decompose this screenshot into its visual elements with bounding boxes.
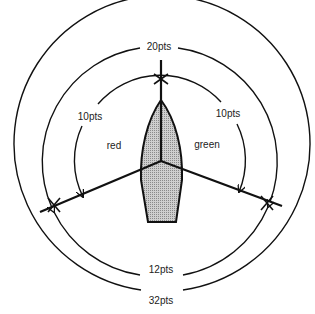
label-20pts: 20pts [147, 42, 171, 52]
sailing-points-diagram: 20pts 10pts 10pts red green 12pts 32pts [0, 0, 315, 314]
label-32pts: 32pts [149, 296, 173, 306]
label-red: red [107, 141, 121, 151]
label-right-10pts: 10pts [216, 109, 240, 119]
label-green: green [194, 140, 220, 150]
label-12pts: 12pts [149, 265, 173, 275]
label-left-10pts: 10pts [78, 112, 102, 122]
